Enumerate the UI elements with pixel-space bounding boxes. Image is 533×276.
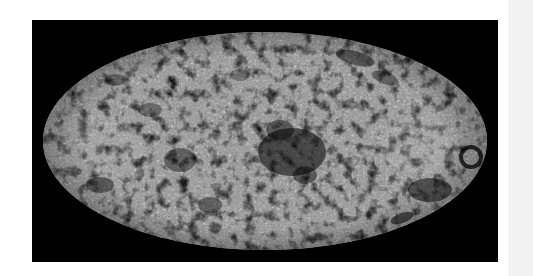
sky-map-frame [32, 20, 498, 262]
page [0, 0, 533, 276]
sky-map [32, 20, 498, 262]
side-strip [508, 0, 533, 276]
